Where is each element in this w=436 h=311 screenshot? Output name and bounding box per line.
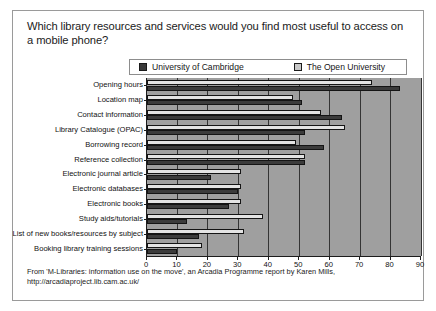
category-label: Electronic books — [87, 199, 143, 209]
category-label: Location map — [97, 95, 143, 105]
category-label: Reference collection — [74, 155, 143, 165]
category-axis-labels: Opening hoursLocation mapContact informa… — [13, 78, 145, 256]
category-label: Library Catalogue (OPAC) — [55, 125, 143, 135]
category-label: Borrowing record — [85, 140, 143, 150]
plot-area — [146, 78, 421, 257]
chart-title: Which library resources and services wou… — [27, 19, 407, 47]
bar-university-of-cambridge — [147, 175, 211, 180]
bar-the-open-university — [147, 110, 321, 115]
bar-university-of-cambridge — [147, 86, 400, 91]
category-label: Electronic journal article — [62, 169, 143, 179]
bar-university-of-cambridge — [147, 100, 302, 105]
gridline — [329, 78, 330, 256]
bar-university-of-cambridge — [147, 130, 305, 135]
plot-wrapper: Opening hoursLocation mapContact informa… — [13, 67, 425, 267]
source-note: From 'M-Libraries: information use on th… — [27, 267, 407, 287]
bar-university-of-cambridge — [147, 145, 324, 150]
gridline — [360, 78, 361, 256]
gridline — [390, 78, 391, 256]
bar-university-of-cambridge — [147, 160, 305, 165]
bar-the-open-university — [147, 199, 241, 204]
bar-the-open-university — [147, 95, 293, 100]
category-label: List of new books/resources by subject — [13, 229, 143, 239]
source-note-line1: From 'M-Libraries: information use on th… — [27, 267, 335, 276]
bar-university-of-cambridge — [147, 115, 342, 120]
x-tick-label: 90 — [416, 260, 424, 269]
bar-the-open-university — [147, 80, 372, 85]
bar-university-of-cambridge — [147, 234, 199, 239]
category-label: Booking library training sessions — [34, 244, 143, 254]
bar-university-of-cambridge — [147, 249, 177, 254]
chart-figure: Which library resources and services wou… — [12, 10, 424, 301]
bar-university-of-cambridge — [147, 189, 238, 194]
category-label: Contact information — [77, 110, 143, 120]
bar-the-open-university — [147, 140, 296, 145]
category-label: Electronic databases — [73, 184, 144, 194]
category-label: Opening hours — [93, 80, 143, 90]
source-note-line2: http://arcadiaproject.lib.cam.ac.uk/ — [27, 277, 407, 287]
bar-the-open-university — [147, 229, 244, 234]
bar-university-of-cambridge — [147, 204, 229, 209]
bar-the-open-university — [147, 125, 345, 130]
category-label: Study aids/tutorials — [79, 214, 143, 224]
bar-the-open-university — [147, 169, 241, 174]
bar-the-open-university — [147, 243, 202, 248]
gridline — [421, 78, 422, 256]
bar-the-open-university — [147, 154, 305, 159]
bar-university-of-cambridge — [147, 219, 187, 224]
bar-the-open-university — [147, 184, 241, 189]
bar-the-open-university — [147, 214, 263, 219]
